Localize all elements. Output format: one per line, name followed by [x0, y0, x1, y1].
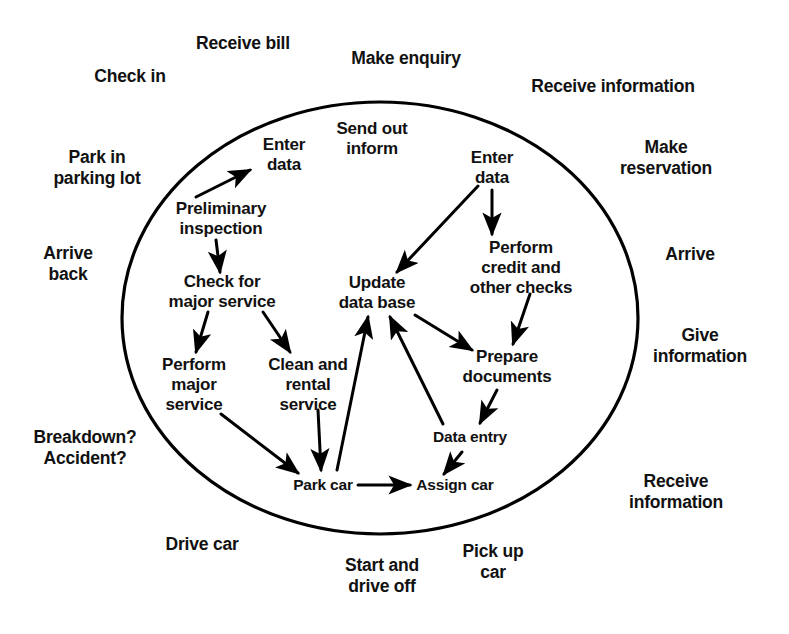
edge-data-entry-to-update-db [390, 317, 443, 424]
edge-perform-credit-to-prepare-docs [513, 294, 530, 344]
edge-perform-major-to-park-car [221, 414, 298, 473]
edge-check-major-to-perform-major [196, 312, 208, 352]
edge-preliminary-to-check-major [216, 240, 220, 272]
edge-prepare-docs-to-data-entry [480, 390, 497, 423]
edge-layer [196, 170, 530, 485]
edge-clean-rental-to-park-car [318, 410, 321, 470]
edge-park-car-to-update-db [337, 317, 368, 470]
edge-check-major-to-clean-rental [263, 312, 290, 352]
edge-enter-data-right-to-update-db [397, 186, 478, 272]
system-boundary-ellipse [122, 102, 638, 534]
edge-update-db-to-prepare-docs [415, 315, 472, 350]
diagram-canvas: Check inReceive billMake enquiryReceive … [0, 0, 789, 634]
edge-data-entry-to-assign-car [444, 452, 462, 474]
edge-preliminary-to-enter-data [196, 170, 250, 197]
diagram-vector-layer [0, 0, 789, 634]
